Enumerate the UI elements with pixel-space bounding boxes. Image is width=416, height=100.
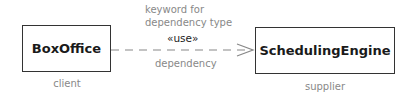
stereotype-keyword: «use» <box>167 32 198 44</box>
dependency-arrow <box>0 0 416 100</box>
annotation-line-2: dependency type <box>145 17 245 29</box>
dependency-label: dependency <box>155 58 235 70</box>
annotation-line-1: keyword for <box>145 4 205 16</box>
